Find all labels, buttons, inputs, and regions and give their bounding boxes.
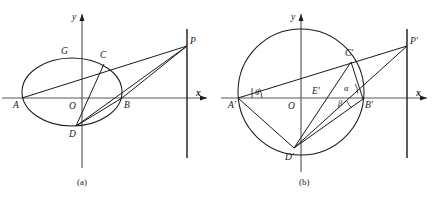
chord-B-P [122, 46, 187, 98]
chord-Cp-Bp [351, 62, 363, 99]
chord-D-P [76, 46, 187, 126]
x-axis-arrow-b [420, 95, 427, 100]
chord-Dp-Pp [294, 46, 407, 148]
x-axis-arrow-a [200, 95, 207, 100]
point-label-G: G [61, 46, 68, 56]
y-axis-arrow-a [80, 14, 85, 21]
chord-Dp-Bp [294, 99, 363, 148]
x-axis-label-b: x [415, 88, 421, 98]
origin-label-b: O [288, 101, 295, 111]
point-label-B: B [124, 100, 130, 110]
y-axis-arrow-b [299, 14, 304, 21]
point-label-Bp: B′ [365, 100, 374, 110]
geometry-figure: x y O A B C D G P [0, 0, 435, 202]
point-label-A: A [12, 100, 19, 110]
chord-Cp-Dp [294, 62, 351, 148]
chord-C-D [76, 64, 104, 126]
point-label-Ep: E′ [311, 86, 321, 96]
caption-panel-a: (a) [77, 177, 87, 187]
point-label-P: P [189, 36, 196, 46]
point-label-C: C [100, 50, 107, 60]
x-axis-label-a: x [195, 88, 201, 98]
beta-arc [347, 101, 352, 108]
chord-Ap-Pp [238, 46, 407, 98]
origin-label-a: O [69, 101, 76, 111]
point-label-Ap: A′ [227, 100, 237, 110]
ellipse-curve [22, 58, 122, 126]
figure-canvas: x y O A B C D G P [0, 0, 435, 202]
angle-label-alpha: α [344, 83, 349, 93]
y-axis-label-a: y [71, 12, 77, 22]
panel-b: x y O A′ B′ C′ D′ E′ P′ θ α β [221, 12, 427, 172]
caption-panel-b: (b) [299, 177, 310, 187]
angle-label-theta: θ [255, 87, 259, 97]
angle-label-beta: β [337, 98, 343, 108]
point-label-D: D [68, 129, 76, 139]
chord-D-B [76, 98, 122, 126]
panel-a: x y O A B C D G P [2, 12, 207, 168]
theta-arc [260, 89, 263, 99]
point-label-Dp: D′ [284, 152, 295, 162]
point-label-Pp: P′ [409, 36, 419, 46]
y-axis-label-b: y [290, 12, 296, 22]
point-label-Cp: C′ [345, 48, 354, 58]
